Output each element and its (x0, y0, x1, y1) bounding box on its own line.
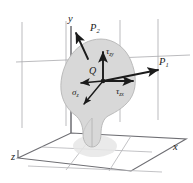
sigma-z-sub: z (76, 92, 78, 98)
force-label-p1: P1 (159, 57, 169, 68)
axis-label-x: x (173, 142, 178, 153)
point-label-q: Q (89, 66, 96, 76)
force-p1-sub: 1 (165, 61, 168, 68)
tau-zx-sub: zx (119, 91, 123, 97)
figure-container: y x z Q P2 P1 τzy σz τzx (0, 0, 193, 183)
tau-zy-sub: zy (109, 51, 113, 57)
point-q-marker (101, 79, 106, 84)
force-p2-sub: 2 (96, 27, 99, 34)
stress-label-sigma-z: σz (72, 88, 79, 98)
force-label-p2: P2 (90, 23, 100, 34)
stress-label-tau-zx: τzx (116, 87, 124, 97)
axis-label-z: z (11, 152, 15, 163)
axis-label-y: y (68, 14, 73, 25)
stress-label-tau-zy: τzy (106, 47, 114, 57)
